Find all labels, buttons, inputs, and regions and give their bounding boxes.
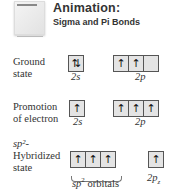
orbital-label-2s: 2s [73,116,82,127]
sp2-hybrid-orbitals: ↑ ↑ ↑ [70,151,116,168]
orbital-label-2s: 2s [71,71,80,82]
orbital-label-2pz: 2pz [147,172,160,186]
electron-up-icon: ↑ [70,101,84,116]
electron-up-icon: ↑ [114,56,129,71]
animation-subtitle[interactable]: Sigma and Pi Bonds [53,17,140,27]
electron-up-icon: ↑ [129,101,144,116]
promotion-2p-orbitals: ↑ ↑ ↑ [113,100,159,117]
electron-up-icon: ↑ [86,152,101,167]
orbital-label-2p: 2p [135,71,146,82]
ground-2p-orbitals: ↑ ↑ [113,55,159,72]
promotion-2s-orbital: ↑ [69,100,85,117]
electron-pair-icon: ⇅ [69,56,83,71]
label-line: state [13,162,60,174]
orbital-label-2p: 2p [135,116,146,127]
electron-up-icon: ↑ [149,152,163,167]
promotion-label: Promotion of electron [13,101,58,125]
electron-up-icon: ↑ [129,56,144,71]
empty-orbital [144,56,158,71]
thumbnail-title-bar [17,4,37,6]
2p-text: 2p [147,172,158,183]
animation-title[interactable]: Animation: [53,1,120,15]
label-line: sp²- [13,138,60,150]
orbital-label-sp2: sp2 orbitals [72,176,119,189]
orbitals-text: orbitals [85,178,119,189]
thumbnail-shadow-line [17,36,43,37]
label-line: Ground [13,56,45,68]
z-subscript: z [158,178,161,186]
animation-thumbnail-icon[interactable] [14,1,45,35]
sp-text: sp [72,178,81,189]
electron-up-icon: ↑ [101,152,115,167]
label-line: of electron [13,113,58,125]
electron-up-icon: ↑ [114,101,129,116]
2pz-orbital: ↑ [148,151,164,168]
label-line: Promotion [13,101,58,113]
hybridized-label: sp²- Hybridized state [13,138,60,174]
ground-state-label: Ground state [13,56,45,80]
label-line: state [13,68,45,80]
ground-2s-orbital: ⇅ [68,55,84,72]
electron-up-icon: ↑ [144,101,158,116]
label-line: Hybridized [13,150,60,162]
electron-up-icon: ↑ [71,152,86,167]
